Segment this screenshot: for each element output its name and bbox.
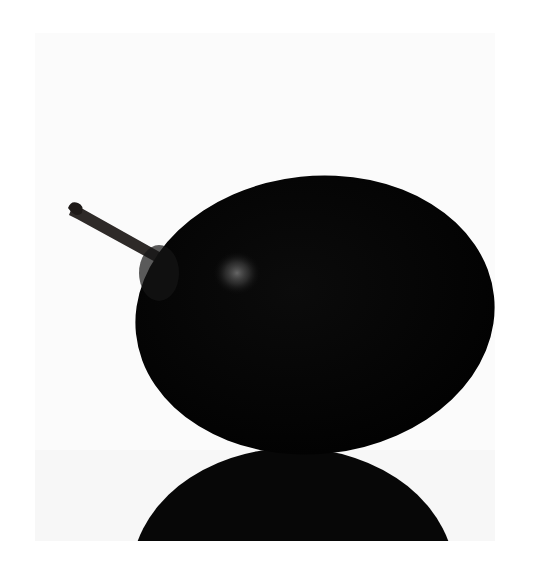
highlight: [213, 251, 261, 295]
photo: [35, 33, 495, 541]
plum-illustration: [35, 33, 495, 541]
plum: [121, 158, 495, 472]
plum-reflection: [131, 448, 455, 541]
